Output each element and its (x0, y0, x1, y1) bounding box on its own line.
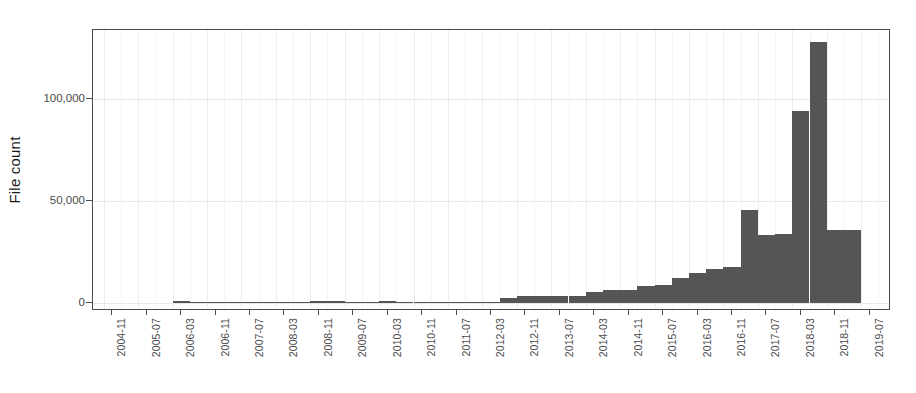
bar (603, 290, 620, 303)
bar (689, 273, 706, 303)
bar (362, 302, 379, 303)
gridline-vertical-minor (500, 30, 501, 309)
x-axis-tick-label: 2018-03 (804, 318, 816, 357)
bar (706, 269, 723, 303)
bar (500, 298, 517, 303)
bar (327, 301, 344, 303)
x-axis-tick-label: 2010-03 (391, 318, 403, 357)
gridline-vertical-minor (878, 30, 879, 309)
gridline-vertical (861, 30, 862, 309)
bar (672, 278, 689, 304)
x-axis-tick-mark (283, 310, 284, 315)
bar (396, 302, 413, 303)
y-axis-tick-labels: 050,000100,000 (0, 0, 90, 393)
bar (448, 302, 465, 303)
bar (741, 210, 758, 303)
bar (173, 301, 190, 303)
bar (586, 292, 603, 303)
gridline-vertical-minor (155, 30, 156, 309)
x-axis-tick-mark (765, 310, 766, 315)
gridline-vertical-minor (121, 30, 122, 309)
gridline-vertical-minor (569, 30, 570, 309)
x-axis-tick-label: 2016-03 (701, 318, 713, 357)
bar (775, 234, 792, 303)
gridline-vertical (655, 30, 656, 309)
gridline-vertical (173, 30, 174, 309)
bar (569, 296, 586, 303)
gridline-vertical-minor (637, 30, 638, 309)
bar (551, 296, 568, 303)
bar (655, 285, 672, 303)
bar (431, 302, 448, 303)
x-axis-tick-mark (318, 310, 319, 315)
bar (465, 302, 482, 303)
gridline-vertical-minor (293, 30, 294, 309)
x-axis-tick-label: 2006-11 (219, 318, 231, 356)
bar (844, 230, 861, 303)
gridline-vertical (241, 30, 242, 309)
gridline-vertical-minor (396, 30, 397, 309)
bar (224, 302, 241, 303)
x-axis-tick-mark (215, 310, 216, 315)
x-axis-tick-mark (869, 310, 870, 315)
gridline-horizontal (93, 303, 889, 304)
gridline-vertical-minor (706, 30, 707, 309)
bar (414, 302, 431, 303)
bar (207, 302, 224, 303)
gridline-vertical-minor (259, 30, 260, 309)
bar (259, 302, 276, 303)
x-axis-tick-label: 2012-03 (494, 318, 506, 357)
chart-figure: File count 050,000100,000 2004-112005-07… (0, 0, 916, 393)
x-axis-tick-mark (490, 310, 491, 315)
x-axis-tick-mark (180, 310, 181, 315)
gridline-vertical (517, 30, 518, 309)
bar (241, 302, 258, 303)
bar (293, 302, 310, 303)
gridline-vertical (448, 30, 449, 309)
bar (345, 302, 362, 303)
x-axis-tick-mark (697, 310, 698, 315)
x-axis-tick-mark (111, 310, 112, 315)
x-axis-tick-mark (800, 310, 801, 315)
x-axis-tick-label: 2005-07 (150, 318, 162, 357)
gridline-vertical-minor (431, 30, 432, 309)
x-axis-tick-label: 2008-03 (287, 318, 299, 357)
x-axis-tick-label: 2010-11 (425, 318, 437, 356)
y-axis-tick-mark (86, 200, 92, 201)
bar (276, 302, 293, 303)
x-axis-tick-label: 2013-07 (563, 318, 575, 357)
x-axis-tick-label: 2012-11 (528, 318, 540, 356)
gridline-vertical (104, 30, 105, 309)
bar (758, 235, 775, 303)
gridline-vertical-minor (190, 30, 191, 309)
bar (482, 302, 499, 303)
bar (620, 290, 637, 303)
x-axis-tick-mark (249, 310, 250, 315)
bar (534, 296, 551, 303)
gridline-vertical (310, 30, 311, 309)
bar (637, 286, 654, 303)
x-axis-tick-label: 2007-07 (253, 318, 265, 357)
x-axis-tick-mark (662, 310, 663, 315)
gridline-vertical-minor (327, 30, 328, 309)
gridline-vertical (689, 30, 690, 309)
gridline-horizontal (93, 99, 889, 100)
y-axis-tick-mark (86, 98, 92, 99)
gridline-vertical (414, 30, 415, 309)
x-axis-tick-label: 2019-07 (873, 318, 885, 357)
x-axis-tick-mark (628, 310, 629, 315)
x-axis-tick-label: 2004-11 (115, 318, 127, 356)
bar (379, 301, 396, 303)
x-axis-tick-mark (559, 310, 560, 315)
gridline-vertical-minor (534, 30, 535, 309)
x-axis-tick-mark (834, 310, 835, 315)
x-axis-tick-label: 2011-07 (460, 318, 472, 356)
gridline-vertical (276, 30, 277, 309)
bar (792, 111, 809, 303)
x-axis-tick-label: 2017-07 (769, 318, 781, 357)
bar (827, 230, 844, 303)
x-axis-tick-mark (352, 310, 353, 315)
gridline-vertical (620, 30, 621, 309)
gridline-vertical (138, 30, 139, 309)
gridline-vertical-minor (465, 30, 466, 309)
